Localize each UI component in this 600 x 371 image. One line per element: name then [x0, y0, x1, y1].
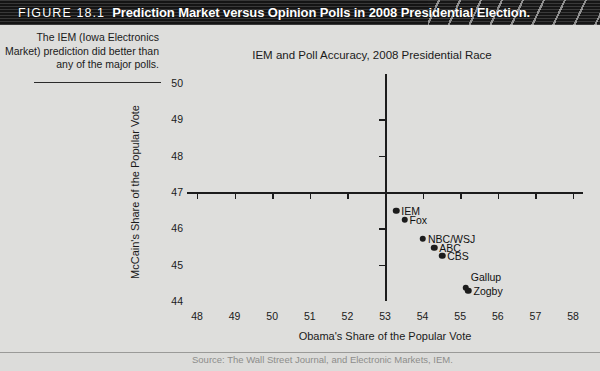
figure-header-inner: FIGURE 18.1 Prediction Market versus Opi…: [0, 0, 428, 25]
x-tick-label-52: 52: [342, 310, 354, 322]
x-tick-label-53: 53: [379, 310, 391, 322]
x-tick-label-56: 56: [492, 310, 504, 322]
figure-body: The IEM (Iowa Electronics Market) predic…: [0, 25, 600, 353]
x-axis-label: Obama's Share of the Popular Vote: [197, 330, 573, 342]
figure-title: Prediction Market versus Opinion Polls i…: [112, 5, 530, 20]
y-tick-46: [379, 228, 386, 229]
plot-region: 4849505152535455565758 44454647484950 IE…: [197, 83, 573, 301]
data-point-label-fox: Fox: [410, 214, 428, 226]
x-tick-label-54: 54: [417, 310, 429, 322]
data-point-abc: [431, 245, 438, 252]
x-tick-52: [347, 193, 348, 199]
data-point-label-gallup: Gallup: [471, 271, 501, 283]
y-tick-label-46: 46: [171, 222, 183, 234]
data-point-zogby: [465, 288, 472, 295]
x-tick-label-49: 49: [229, 310, 241, 322]
y-tick-48: [379, 156, 386, 157]
y-tick-label-47: 47: [171, 186, 183, 198]
figure-source-line: Source: The Wall Street Journal, and Ele…: [162, 355, 592, 371]
data-point-label-zogby: Zogby: [473, 285, 502, 297]
chart-title: IEM and Poll Accuracy, 2008 Presidential…: [162, 49, 582, 61]
x-tick-54: [423, 193, 424, 199]
y-tick-49: [379, 119, 386, 120]
x-tick-50: [272, 193, 273, 199]
x-tick-label-50: 50: [266, 310, 278, 322]
x-tick-label-57: 57: [530, 310, 542, 322]
figure-header-band: FIGURE 18.1 Prediction Market versus Opi…: [0, 0, 600, 25]
data-point-iem: [393, 208, 400, 215]
figure-caption-block: The IEM (Iowa Electronics Market) predic…: [4, 31, 161, 83]
y-tick-label-48: 48: [171, 150, 183, 162]
x-tick-53: [385, 193, 386, 199]
figure-source-text: Source: The Wall Street Journal, and Ele…: [192, 355, 453, 365]
data-point-cbs: [439, 253, 446, 260]
figure-number-label: FIGURE 18.1: [18, 6, 112, 20]
x-tick-51: [310, 193, 311, 199]
x-tick-56: [498, 193, 499, 199]
y-tick-label-44: 44: [171, 295, 183, 307]
y-axis-label: McCain's Share of the Popular Vote: [129, 105, 141, 279]
data-point-fox: [401, 217, 408, 224]
x-tick-label-58: 58: [567, 310, 579, 322]
x-tick-57: [535, 193, 536, 199]
y-tick-45: [379, 265, 386, 266]
x-tick-label-51: 51: [304, 310, 316, 322]
y-tick-label-50: 50: [171, 77, 183, 89]
x-tick-label-48: 48: [191, 310, 203, 322]
data-point-nbc-wsj: [420, 236, 427, 243]
figure-caption-text: The IEM (Iowa Electronics Market) predic…: [4, 31, 161, 72]
x-tick-48: [197, 193, 198, 199]
x-tick-49: [235, 193, 236, 199]
y-tick-label-45: 45: [171, 259, 183, 271]
y-axis-line: [385, 74, 387, 301]
x-tick-55: [460, 193, 461, 199]
x-tick-58: [573, 193, 574, 199]
x-tick-label-55: 55: [454, 310, 466, 322]
y-tick-label-49: 49: [171, 113, 183, 125]
data-point-label-cbs: CBS: [447, 250, 469, 262]
chart-area: IEM and Poll Accuracy, 2008 Presidential…: [162, 25, 600, 353]
figure-container: FIGURE 18.1 Prediction Market versus Opi…: [0, 0, 600, 371]
caption-divider: [34, 82, 161, 83]
